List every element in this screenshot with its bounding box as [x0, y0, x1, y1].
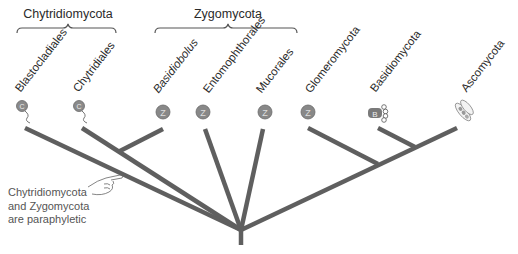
zygospore-icon: Z: [301, 105, 315, 119]
note-line: Chytridiomycota: [8, 186, 89, 200]
branch-basidiomycota: [378, 128, 415, 147]
branch-basidiobolus: [118, 129, 163, 152]
zygospore-icon: Z: [156, 105, 170, 119]
branch-dikarya-stem: [241, 128, 457, 230]
ascus-icon: [453, 97, 477, 123]
brace-zygomycota: [155, 24, 297, 33]
pointing-hand-icon: [88, 175, 123, 195]
svg-text:Z: Z: [262, 108, 268, 118]
zygospore-icon: Z: [258, 105, 272, 119]
paraphyly-note: Chytridiomycota and Zygomycota are parap…: [8, 186, 89, 227]
chytrid-zoospore-icon: C: [17, 101, 31, 124]
svg-text:Z: Z: [160, 108, 166, 118]
branch-mucorales: [241, 129, 263, 230]
basidium-icon: B: [368, 105, 388, 123]
phylogeny-diagram: Chytridiomycota Zygomycota C: [0, 0, 518, 254]
note-line: and Zygomycota: [8, 200, 89, 214]
branches: [25, 128, 457, 245]
svg-text:C: C: [76, 103, 81, 110]
svg-text:C: C: [19, 103, 24, 110]
svg-text:Z: Z: [305, 108, 311, 118]
zygospore-icon: Z: [196, 105, 210, 119]
svg-text:Z: Z: [200, 108, 206, 118]
note-line: are paraphyletic: [8, 213, 89, 227]
branch-chytridiales: [82, 128, 241, 230]
svg-text:B: B: [372, 110, 377, 119]
branch-glomeromycota: [308, 128, 378, 164]
chytrid-zoospore-icon: C: [74, 101, 88, 124]
